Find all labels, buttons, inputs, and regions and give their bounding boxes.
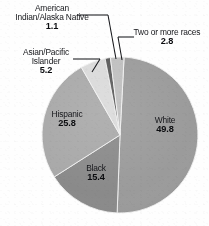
pie-label-black: Black 15.4 bbox=[73, 164, 119, 182]
leader-line-american-indian-alaska-native-stem bbox=[108, 15, 116, 59]
pie-chart-figure: American Indian/Alaska Native 1.1 Asian/… bbox=[0, 0, 209, 226]
pie-label-asian-pacific-islander-line2: Islander bbox=[0, 57, 92, 66]
pie-shading-overlay bbox=[42, 57, 198, 213]
pie-label-asian-pacific-islander: Asian/Pacific Islander 5.2 bbox=[0, 48, 92, 75]
leader-line-two-or-more-races-stem bbox=[118, 37, 122, 60]
pie-value-asian-pacific-islander: 5.2 bbox=[0, 66, 92, 75]
pie-value-two-or-more-races: 2.8 bbox=[126, 37, 208, 46]
pie-label-american-indian-alaska-native-line2: Indian/Alaska Native bbox=[2, 13, 102, 22]
pie-value-black: 15.4 bbox=[73, 173, 119, 182]
pie-label-two-or-more-races: Two or more races 2.8 bbox=[126, 28, 208, 46]
pie-label-american-indian-alaska-native: American Indian/Alaska Native 1.1 bbox=[2, 4, 102, 31]
pie-value-white: 49.8 bbox=[144, 125, 186, 134]
pie-value-hispanic: 25.8 bbox=[40, 119, 94, 128]
pie-label-white: White 49.8 bbox=[144, 116, 186, 134]
pie-label-hispanic: Hispanic 25.8 bbox=[40, 110, 94, 128]
pie-value-american-indian-alaska-native: 1.1 bbox=[2, 22, 102, 31]
